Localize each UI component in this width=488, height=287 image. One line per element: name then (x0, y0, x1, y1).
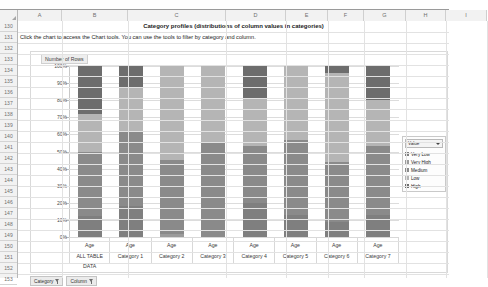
grid-line-horizontal (18, 230, 449, 231)
column-header-d[interactable]: D (226, 10, 286, 21)
row-header-135[interactable]: 135 (0, 76, 17, 87)
chart-plot-area[interactable]: 100%90%80%70%60%50%40%30%20%10%0% (69, 66, 399, 237)
column-header-bar[interactable]: ABCDEFGHI (0, 10, 449, 21)
help-text: Click the chart to access the Chart tool… (20, 32, 256, 43)
chart-bar-segment[interactable] (119, 206, 143, 237)
grid-line-vertical (226, 21, 227, 278)
worksheet-cells[interactable]: Category profiles (distributions of colu… (18, 21, 449, 278)
grid-line-horizontal (18, 32, 449, 33)
column-header-g[interactable]: G (364, 10, 406, 21)
select-all-corner[interactable] (0, 10, 18, 21)
slicer-column-button[interactable]: Column (66, 276, 97, 286)
column-header-c[interactable]: C (128, 10, 226, 21)
chart-bar-segment[interactable] (284, 140, 308, 215)
grid-line-horizontal (18, 164, 449, 165)
y-axis-tick-label: 40% (41, 166, 67, 172)
row-header-141[interactable]: 141 (0, 142, 17, 153)
row-header-148[interactable]: 148 (0, 219, 17, 230)
chart-bar[interactable] (119, 66, 143, 237)
filter-icon[interactable] (55, 279, 59, 284)
chart-bar[interactable] (284, 66, 308, 237)
chart-bar[interactable] (243, 66, 267, 237)
legend-item-label: Medium (411, 168, 427, 173)
chart-bar[interactable] (160, 66, 184, 237)
chart-bar-segment[interactable] (366, 100, 390, 146)
row-header-134[interactable]: 134 (0, 65, 17, 76)
grid-line-horizontal (18, 219, 449, 220)
grid-line-horizontal (18, 65, 449, 66)
row-header-146[interactable]: 146 (0, 197, 17, 208)
chart-bar-segment[interactable] (284, 66, 308, 140)
filter-icon[interactable] (89, 279, 93, 284)
grid-line-vertical (62, 21, 63, 278)
legend-item[interactable]: Medium (405, 166, 443, 174)
row-header-136[interactable]: 136 (0, 87, 17, 98)
chart-bar-segment[interactable] (366, 146, 390, 214)
chart-bar[interactable] (201, 66, 225, 237)
legend-item[interactable]: Very Low (405, 150, 443, 158)
row-header-138[interactable]: 138 (0, 109, 17, 120)
grid-line-horizontal (18, 142, 449, 143)
chart-bar[interactable] (366, 66, 390, 237)
grid-line-horizontal (18, 109, 449, 110)
grid-line-horizontal (18, 153, 449, 154)
chart-bar-segment[interactable] (160, 66, 184, 160)
row-header-152[interactable]: 152 (0, 263, 17, 274)
row-header-139[interactable]: 139 (0, 120, 17, 131)
chart-bar-segment[interactable] (366, 66, 390, 100)
grid-line-horizontal (18, 87, 449, 88)
chart-bar-segment[interactable] (78, 66, 102, 114)
row-header-142[interactable]: 142 (0, 153, 17, 164)
row-header-143[interactable]: 143 (0, 164, 17, 175)
row-header-130[interactable]: 130 (0, 21, 17, 32)
y-axis-tick-label: 90% (41, 80, 67, 86)
chart-bar-segment[interactable] (201, 143, 225, 237)
chart-bar[interactable] (78, 66, 102, 237)
row-header-bar[interactable]: 1301311321331341351361371381391401411421… (0, 21, 18, 278)
chart-bar-segment[interactable] (78, 152, 102, 217)
grid-line-horizontal (18, 98, 449, 99)
grid-line-horizontal (18, 76, 449, 77)
y-axis-tick-label: 0% (41, 234, 67, 240)
grid-line-horizontal (18, 175, 449, 176)
row-header-133[interactable]: 133 (0, 54, 17, 65)
column-header-e[interactable]: E (286, 10, 328, 21)
row-header-140[interactable]: 140 (0, 131, 17, 142)
row-header-131[interactable]: 131 (0, 32, 17, 43)
slicer-category-button[interactable]: Category (30, 276, 63, 286)
column-header-b[interactable]: B (62, 10, 128, 21)
chart-bar-segment[interactable] (243, 99, 267, 147)
grid-line-horizontal (18, 131, 449, 132)
slicer-button-bar[interactable]: CategoryColumn (30, 276, 97, 286)
grid-line-horizontal (18, 43, 449, 44)
grid-line-horizontal (18, 241, 449, 242)
grid-line-horizontal (18, 186, 449, 187)
page-title: Category profiles (distributions of colu… (18, 21, 449, 32)
legend-value-dropdown[interactable]: Value (405, 139, 443, 148)
row-header-147[interactable]: 147 (0, 208, 17, 219)
row-header-144[interactable]: 144 (0, 175, 17, 186)
grid-line-horizontal (18, 197, 449, 198)
chart-bar-segment[interactable] (243, 66, 267, 98)
legend-item-label: Low (411, 176, 419, 181)
row-header-150[interactable]: 150 (0, 241, 17, 252)
grid-line-horizontal (18, 263, 449, 264)
slicer-label: Column (70, 279, 87, 284)
grid-line-horizontal (18, 274, 449, 275)
chart-object[interactable]: Number of Rows 100%90%80%70%60%50%40%30%… (30, 51, 448, 273)
grid-line-vertical (128, 21, 129, 278)
row-header-153[interactable]: 153 (0, 274, 17, 285)
row-header-149[interactable]: 149 (0, 230, 17, 241)
column-header-i[interactable]: I (446, 10, 487, 21)
row-header-151[interactable]: 151 (0, 252, 17, 263)
grid-line-horizontal (18, 54, 449, 55)
row-header-132[interactable]: 132 (0, 43, 17, 54)
column-header-h[interactable]: H (406, 10, 446, 21)
column-header-a[interactable]: A (18, 10, 62, 21)
row-header-137[interactable]: 137 (0, 98, 17, 109)
legend-item-list: Very LowVery HighMediumLowHigh (405, 150, 443, 190)
row-header-145[interactable]: 145 (0, 186, 17, 197)
column-header-f[interactable]: F (328, 10, 364, 21)
y-axis-tick-label: 60% (41, 131, 67, 137)
grid-line-horizontal (18, 208, 449, 209)
